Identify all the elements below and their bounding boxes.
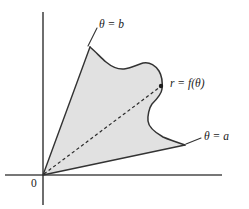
shaded-region xyxy=(43,47,185,175)
label-theta-a: θ = a xyxy=(204,130,229,142)
label-origin: 0 xyxy=(31,177,37,189)
label-theta-b: θ = b xyxy=(99,18,124,30)
leader-line-theta-b xyxy=(88,28,97,46)
figure-canvas: θ = b r = f(θ) θ = a 0 xyxy=(0,0,249,209)
leader-line-theta-a xyxy=(186,138,201,144)
label-r-of-theta: r = f(θ) xyxy=(170,77,205,90)
radial-intersection-dot xyxy=(159,84,163,88)
polar-region-figure: θ = b r = f(θ) θ = a 0 xyxy=(0,0,249,209)
